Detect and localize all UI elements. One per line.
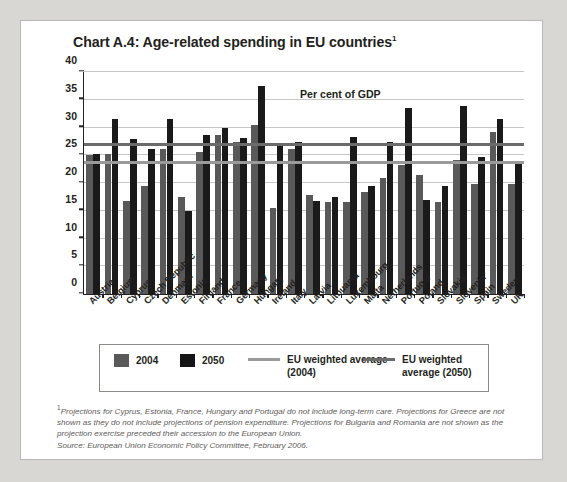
bar-2050 <box>515 164 522 294</box>
bar-2050 <box>460 106 467 294</box>
bar-group <box>490 72 504 294</box>
reference-line <box>84 161 524 164</box>
bar-2050 <box>203 135 210 294</box>
y-tick-label: 25 <box>65 137 77 149</box>
chart-plot-area: 0510152025303540 AustriaBelgiumCyprusCze… <box>59 64 531 314</box>
y-tick-mark <box>79 292 84 293</box>
bar-group <box>105 72 119 294</box>
y-tick-mark <box>79 264 84 265</box>
title-footnote-marker: 1 <box>392 34 396 43</box>
bar-group <box>288 72 302 294</box>
bar-2050 <box>313 201 320 294</box>
bar-group <box>435 72 449 294</box>
bar-2004 <box>306 195 313 294</box>
bar-group <box>86 72 100 294</box>
legend-swatch <box>180 354 195 367</box>
bar-group <box>416 72 430 294</box>
legend-label: EU weighted average (2050) <box>402 353 488 379</box>
bar-2004 <box>380 178 387 294</box>
bar-2004 <box>251 125 258 294</box>
bar-group <box>251 72 265 294</box>
footnote-text: Projections for Cyprus, Estonia, France,… <box>57 407 504 438</box>
bar-group <box>196 72 210 294</box>
legend-label: 2050 <box>202 354 224 367</box>
bar-2050 <box>332 197 339 294</box>
bar-2004 <box>233 142 240 294</box>
legend-item: 2050 <box>180 354 224 367</box>
y-tick-mark <box>79 236 84 237</box>
y-tick-mark <box>79 209 84 210</box>
chart-legend: 20042050EU weighted average (2004)EU wei… <box>99 344 489 392</box>
bar-2004 <box>160 149 167 294</box>
reference-line <box>84 143 524 146</box>
legend-item: 2004 <box>114 354 158 367</box>
bar-group <box>160 72 174 294</box>
bar-group <box>471 72 485 294</box>
page-title: Chart A.4: Age-related spending in EU co… <box>73 34 396 50</box>
bar-2050 <box>387 142 394 294</box>
legend-item: EU weighted average (2050) <box>363 353 488 379</box>
bar-2050 <box>222 128 229 295</box>
bar-2050 <box>258 86 265 294</box>
bar-2004 <box>490 132 497 294</box>
chart-title-text: Chart A.4: Age-related spending in EU co… <box>73 34 392 50</box>
bar-2050 <box>93 154 100 294</box>
bar-group <box>508 72 522 294</box>
bar-group <box>453 72 467 294</box>
y-tick-mark <box>79 153 84 154</box>
bar-group <box>343 72 357 294</box>
y-tick-label: 0 <box>71 276 77 288</box>
bar-2004 <box>215 135 222 294</box>
y-tick-mark <box>79 125 84 126</box>
bar-group <box>123 72 137 294</box>
y-tick-label: 40 <box>65 54 77 66</box>
legend-swatch <box>114 354 129 367</box>
bar-group <box>141 72 155 294</box>
y-tick-label: 5 <box>71 248 77 260</box>
bar-2004 <box>105 154 112 294</box>
legend-line-key <box>363 358 395 361</box>
bar-2050 <box>442 186 449 294</box>
bar-group <box>306 72 320 294</box>
y-tick-mark <box>79 70 84 71</box>
bar-group <box>398 72 412 294</box>
bar-2004 <box>196 152 203 294</box>
bar-group <box>270 72 284 294</box>
bar-2004 <box>86 155 93 294</box>
legend-label: 2004 <box>136 354 158 367</box>
y-tick-label: 15 <box>65 193 77 205</box>
y-tick-mark <box>79 98 84 99</box>
y-tick-mark <box>79 181 84 182</box>
bar-group <box>361 72 375 294</box>
y-tick-label: 20 <box>65 165 77 177</box>
footnote-source: Source: European Union Economic Policy C… <box>57 440 509 451</box>
bar-2050 <box>295 142 302 294</box>
bar-group <box>233 72 247 294</box>
plot-frame: 0510152025303540 AustriaBelgiumCyprusCze… <box>83 72 524 295</box>
y-tick-label: 30 <box>65 110 77 122</box>
legend-line-key <box>248 358 280 361</box>
bar-group <box>215 72 229 294</box>
y-tick-label: 35 <box>65 82 77 94</box>
bar-group <box>325 72 339 294</box>
y-tick-label: 10 <box>65 221 77 233</box>
footnote: 1Projections for Cyprus, Estonia, France… <box>57 402 509 452</box>
chart-annotation: Per cent of GDP <box>300 88 381 100</box>
chart-card: Chart A.4: Age-related spending in EU co… <box>20 20 543 460</box>
screenshot-page: Chart A.4: Age-related spending in EU co… <box>0 0 567 482</box>
bar-2050 <box>405 108 412 294</box>
bar-2050 <box>148 149 155 294</box>
bar-2004 <box>288 149 295 294</box>
